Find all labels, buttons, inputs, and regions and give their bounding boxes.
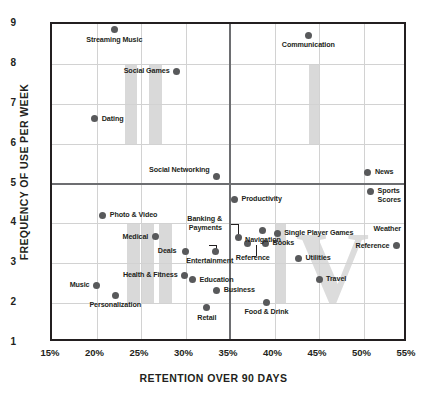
plot-area: V Streaming MusicSocial GamesDatingCommu… (50, 22, 406, 341)
data-point (235, 234, 242, 241)
x-axis-tick-label: 25% (119, 347, 159, 358)
data-point-label: Communication (282, 41, 335, 49)
quadrant-divider-horizontal (52, 183, 404, 185)
gridline-horizontal (52, 104, 404, 105)
data-point (181, 272, 188, 279)
data-point (212, 248, 219, 255)
y-axis-tick-label: 8 (0, 56, 16, 67)
data-point-label: Travel (326, 275, 346, 283)
data-point-label: Medical (123, 233, 149, 241)
data-point-label: Social Games (124, 67, 170, 75)
data-point (305, 32, 312, 39)
x-axis-tick-label: 15% (30, 347, 70, 358)
data-point (203, 304, 210, 311)
x-axis-title: RETENTION OVER 90 DAYS (0, 372, 427, 384)
data-point-label: News (375, 168, 393, 176)
data-point (367, 188, 374, 195)
x-axis-tick-label: 50% (342, 347, 382, 358)
data-point (259, 227, 266, 234)
data-point-label: Health & Fitness (123, 271, 178, 279)
data-point (173, 68, 180, 75)
data-point (152, 233, 159, 240)
data-point-label: Utilities (306, 254, 331, 262)
y-axis-tick-label: 7 (0, 96, 16, 107)
y-axis-tick-label: 6 (0, 136, 16, 147)
data-point-label: Education (200, 276, 234, 284)
data-point-label: Music (70, 281, 90, 289)
gridline-vertical (275, 24, 276, 339)
y-axis-tick-label: 3 (0, 256, 16, 267)
scatter-chart: 123456789 FREQUENCY OF USE PER WEEK V St… (0, 0, 427, 409)
data-point-label: Dating (102, 115, 124, 123)
gridline-vertical (186, 24, 187, 339)
data-point (295, 255, 302, 262)
data-point-label: Weather (373, 225, 401, 233)
data-point-label: Business (224, 286, 255, 294)
data-point-label: Streaming Music (86, 36, 142, 44)
data-point-label: Banking & Payments (176, 215, 222, 232)
data-point (231, 196, 238, 203)
y-axis-tick-label: 5 (0, 176, 16, 187)
x-axis-tick-label: 35% (208, 347, 248, 358)
data-point (189, 276, 196, 283)
data-point-label: Deals (158, 247, 177, 255)
data-point-label: Retail (197, 314, 216, 322)
data-point-label: Books (273, 239, 294, 247)
y-axis-tick-label: 9 (0, 17, 16, 28)
data-point (182, 248, 189, 255)
data-point (263, 299, 270, 306)
data-point (364, 169, 371, 176)
y-axis-title: FREQUENCY OF USE PER WEEK (18, 62, 30, 282)
data-point (99, 212, 106, 219)
data-point (111, 26, 118, 33)
data-point-label: Reference (356, 242, 390, 250)
x-axis-tick-label: 40% (253, 347, 293, 358)
data-point (405, 232, 407, 239)
data-point-label: Personalization (89, 301, 141, 309)
data-point-label: Single Player Games (284, 229, 353, 237)
leader-line (231, 224, 238, 225)
data-point-label: Entertainment (186, 257, 233, 265)
gridline-horizontal (52, 144, 404, 145)
data-point (213, 173, 220, 180)
leader-line (209, 245, 216, 246)
data-point (93, 282, 100, 289)
gridline-horizontal (52, 223, 404, 224)
gridline-vertical (364, 24, 365, 339)
x-axis-tick-label: 20% (75, 347, 115, 358)
y-axis-tick-label: 4 (0, 216, 16, 227)
y-axis-tick-label: 1 (0, 336, 16, 347)
chart-title (0, 0, 427, 4)
data-point-label: Photo & Video (110, 211, 158, 219)
data-point-label: Productivity (241, 195, 281, 203)
data-point-label: Sports Scores (378, 187, 406, 204)
data-point (213, 287, 220, 294)
data-point-label: Food & Drink (245, 308, 289, 316)
x-axis-tick-label: 30% (164, 347, 204, 358)
data-point (316, 276, 323, 283)
x-axis-tick-label: 45% (297, 347, 337, 358)
data-point (112, 292, 119, 299)
y-axis-tick-label: 2 (0, 296, 16, 307)
data-point-label: Social Networking (149, 166, 210, 174)
gridline-vertical (97, 24, 98, 339)
data-point-label: Reference (236, 254, 270, 262)
data-point (393, 242, 400, 249)
x-axis-tick-label: 55% (386, 347, 426, 358)
gridline-horizontal (52, 64, 404, 65)
gridline-vertical (319, 24, 320, 339)
